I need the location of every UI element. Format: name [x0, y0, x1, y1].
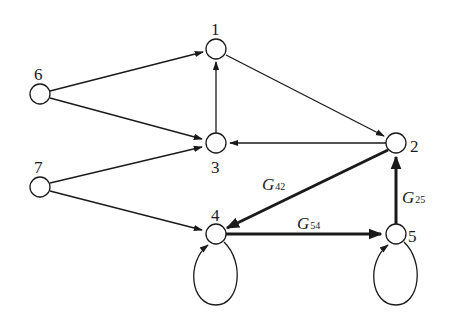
node-3	[206, 133, 226, 153]
node-label-4: 4	[211, 206, 220, 225]
node-4	[206, 224, 226, 244]
node-5	[386, 224, 406, 244]
node-label-2: 2	[410, 137, 419, 156]
edge-7-to-3	[50, 147, 202, 183]
node-2	[386, 133, 406, 153]
gain-label-g54: G54	[297, 214, 320, 233]
gain-label-g25: G25	[402, 188, 425, 207]
node-label-3: 3	[211, 158, 220, 177]
node-label-1: 1	[211, 20, 220, 39]
signal-flow-graph: 1 2 3 4 5 6 7 G42 G54 G25	[0, 0, 455, 335]
gain-label-g42: G42	[262, 175, 285, 194]
node-label-5: 5	[408, 227, 417, 246]
self-loop-5	[374, 242, 418, 305]
edge-6-to-1	[50, 52, 203, 91]
edge-7-to-4	[50, 191, 202, 230]
node-1	[206, 39, 226, 59]
edge-6-to-3	[50, 98, 202, 139]
node-label-6: 6	[34, 65, 43, 84]
edge-1-to-2	[226, 55, 384, 136]
self-loop-4	[194, 242, 238, 305]
node-label-7: 7	[34, 158, 43, 177]
node-7	[30, 177, 50, 197]
node-6	[30, 84, 50, 104]
